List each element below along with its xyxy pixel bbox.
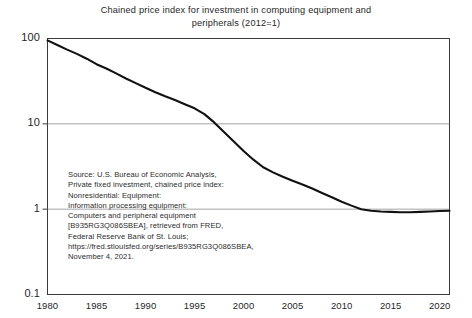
- chart-container: Chained price index for investment in co…: [0, 0, 472, 318]
- y-axis-tick-label: 0.1: [0, 287, 40, 299]
- x-axis-tick-label: 1985: [74, 300, 120, 311]
- plot-area: [0, 0, 472, 318]
- x-axis-tick-label: 1990: [123, 300, 169, 311]
- source-annotation-line: November 4, 2021.: [68, 252, 254, 262]
- x-axis-tick-label: 2020: [417, 300, 463, 311]
- y-axis-tick-label: 100: [0, 31, 40, 43]
- y-axis-tick-label: 10: [0, 116, 40, 128]
- x-axis-tick-label: 2015: [368, 300, 414, 311]
- x-axis-tick-label: 1980: [25, 300, 71, 311]
- x-axis-tick-label: 2010: [319, 300, 365, 311]
- source-annotation-line: Private fixed investment, chained price …: [68, 180, 254, 190]
- source-annotation-line: Information processing equipment:: [68, 201, 254, 211]
- source-annotation-line: https://fred.stlouisfed.org/series/B935R…: [68, 242, 254, 252]
- x-axis-tick-label: 2000: [221, 300, 267, 311]
- y-axis-tick-label: 1: [0, 202, 40, 214]
- source-annotation-line: Federal Reserve Bank of St. Louis;: [68, 232, 254, 242]
- x-axis-tick-label: 2005: [270, 300, 316, 311]
- x-axis-tick-label: 1995: [172, 300, 218, 311]
- source-annotation-line: Computers and peripheral equipment: [68, 211, 254, 221]
- source-annotation-line: Nonresidential: Equipment:: [68, 191, 254, 201]
- source-annotation-line: Source: U.S. Bureau of Economic Analysis…: [68, 170, 254, 180]
- source-annotation-line: [B935RG3Q086SBEA], retrieved from FRED,: [68, 221, 254, 231]
- source-annotation: Source: U.S. Bureau of Economic Analysis…: [68, 170, 254, 263]
